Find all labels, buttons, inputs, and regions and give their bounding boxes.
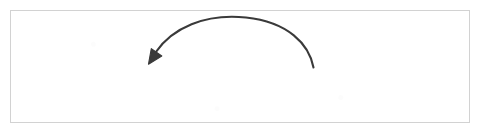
grammar-definition: List = [Element | List] or []	[121, 64, 430, 133]
grammar-line-1: List = [Element | List] or	[121, 112, 430, 133]
recursion-arrow-group	[149, 17, 314, 68]
recursion-arrow-curve	[156, 17, 314, 68]
recursion-arrow-head	[149, 49, 162, 65]
figure-root: List = [Element | List] or []	[0, 0, 481, 133]
